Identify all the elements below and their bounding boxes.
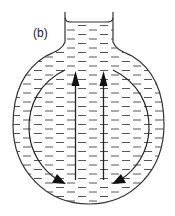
- flask-convection-diagram: (b): [0, 0, 175, 216]
- flask-svg: [0, 0, 175, 216]
- liquid-surface: [65, 18, 113, 22]
